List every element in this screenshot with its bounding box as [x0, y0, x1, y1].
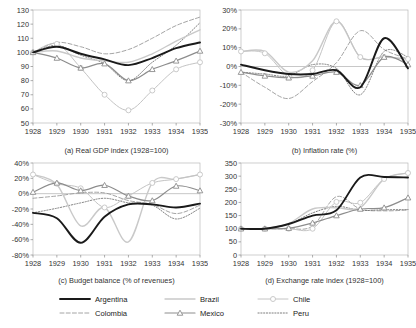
x-tick-label: 1930 — [280, 259, 296, 268]
y-tick-label: 350 — [225, 159, 237, 168]
series-line-argentina — [33, 203, 200, 242]
x-tick-label: 1935 — [400, 259, 416, 268]
chart-panel-b: -30%-20%-10%0%10%20%30%19281929193019311… — [208, 0, 416, 155]
x-tick-label: 1932 — [120, 259, 136, 268]
series-argentina — [33, 203, 200, 242]
x-tick-label: 1933 — [352, 127, 368, 136]
series-colombia — [241, 31, 408, 99]
legend-item-chile[interactable]: Chile — [258, 295, 310, 304]
x-tick-label: 1930 — [72, 259, 88, 268]
panel-caption-a: (a) Real GDP index (1928=100) — [64, 146, 168, 155]
chart-panel-a: 5060708090100110120130192819291930193119… — [0, 0, 208, 155]
legend-marker-chile — [271, 297, 276, 302]
legend-item-brazil[interactable]: Brazil — [165, 295, 219, 304]
x-tick-label: 1928 — [233, 127, 249, 136]
legend-label-peru: Peru — [293, 309, 309, 318]
y-tick-label: 300 — [225, 172, 237, 181]
y-tick-label: -10% — [220, 81, 238, 90]
series-line-mexico — [241, 198, 408, 229]
series-line-chile — [241, 21, 408, 78]
series-mexico — [30, 48, 203, 83]
y-tick-label: 80 — [21, 76, 29, 85]
y-tick-label: 100 — [17, 48, 29, 57]
series-marker-chile — [334, 199, 339, 204]
chart-svg-b: -30%-20%-10%0%10%20%30%19281929193019311… — [208, 0, 416, 155]
series-marker-chile — [198, 172, 203, 177]
panel-caption-d: (d) Exchange rate index (1928=100) — [265, 276, 384, 285]
x-tick-label: 1933 — [144, 127, 160, 136]
legend-item-peru[interactable]: Peru — [258, 309, 309, 318]
y-tick-label: 70 — [21, 90, 29, 99]
series-marker-chile — [310, 68, 315, 73]
series-argentina — [241, 175, 408, 229]
series-marker-chile — [358, 55, 363, 60]
series-line-argentina — [241, 175, 408, 229]
series-line-chile — [33, 43, 200, 110]
y-tick-label: 0% — [226, 62, 237, 71]
legend-label-chile: Chile — [293, 295, 310, 304]
series-marker-chile — [262, 51, 267, 56]
x-tick-label: 1932 — [120, 127, 136, 136]
legend-label-colombia: Colombia — [95, 309, 128, 318]
legend-svg: ArgentinaBrazilChileColombiaMexicoPeru — [0, 288, 416, 328]
series-argentina — [241, 38, 408, 88]
figure-container: 5060708090100110120130192819291930193119… — [0, 0, 416, 328]
x-tick-label: 1934 — [376, 259, 392, 268]
series-marker-chile — [406, 56, 411, 61]
x-tick-label: 1929 — [257, 259, 273, 268]
x-tick-label: 1929 — [49, 127, 65, 136]
series-line-mexico — [33, 51, 200, 81]
y-tick-label: 100 — [225, 224, 237, 233]
series-chile — [31, 172, 203, 210]
series-colombia — [241, 196, 408, 229]
chart-svg-c: -80%-60%-40%-20%0%20%40%1928192919301931… — [0, 155, 208, 285]
y-tick-label: 130 — [17, 6, 29, 15]
series-marker-chile — [31, 172, 36, 177]
series-marker-chile — [239, 49, 244, 54]
y-tick-label: 150 — [225, 211, 237, 220]
series-marker-chile — [150, 88, 155, 93]
legend-item-argentina[interactable]: Argentina — [60, 295, 128, 304]
panel-caption-b: (b) Inflation rate (%) — [292, 146, 357, 155]
x-tick-label: 1931 — [96, 127, 112, 136]
chart-panel-c: -80%-60%-40%-20%0%20%40%1928192919301931… — [0, 155, 208, 285]
y-tick-label: 20% — [14, 174, 29, 183]
x-tick-label: 1934 — [376, 127, 392, 136]
x-tick-label: 1930 — [280, 127, 296, 136]
series-marker-chile — [198, 60, 203, 65]
y-tick-label: 0% — [18, 189, 29, 198]
series-marker-chile — [174, 67, 179, 72]
y-tick-label: -20% — [12, 205, 30, 214]
x-tick-label: 1935 — [192, 127, 208, 136]
chart-svg-a: 5060708090100110120130192819291930193119… — [0, 0, 208, 155]
y-tick-label: 10% — [222, 43, 237, 52]
x-tick-label: 1929 — [257, 127, 273, 136]
x-tick-label: 1934 — [168, 259, 184, 268]
x-tick-label: 1932 — [328, 127, 344, 136]
x-tick-label: 1930 — [72, 127, 88, 136]
legend-item-mexico[interactable]: Mexico — [165, 309, 224, 318]
series-line-brazil — [241, 21, 408, 72]
x-tick-label: 1933 — [144, 259, 160, 268]
y-tick-label: -60% — [12, 235, 30, 244]
legend-label-mexico: Mexico — [200, 309, 224, 318]
series-mexico — [238, 195, 411, 231]
series-marker-chile — [102, 205, 107, 210]
series-chile — [239, 170, 411, 231]
y-tick-label: -20% — [220, 100, 238, 109]
legend-item-colombia[interactable]: Colombia — [60, 309, 128, 318]
panel-caption-c: (c) Budget balance (% of revenues) — [58, 276, 174, 285]
series-chile — [31, 41, 203, 112]
x-tick-label: 1935 — [400, 127, 416, 136]
y-tick-label: 20% — [222, 24, 237, 33]
x-tick-label: 1932 — [328, 259, 344, 268]
x-tick-label: 1935 — [192, 259, 208, 268]
legend-label-argentina: Argentina — [95, 295, 128, 304]
plot-frame — [33, 10, 200, 123]
x-tick-label: 1929 — [49, 259, 65, 268]
series-mexico — [30, 180, 203, 203]
series-marker-chile — [102, 92, 107, 97]
series-colombia — [33, 192, 200, 213]
legend-label-brazil: Brazil — [200, 295, 219, 304]
series-marker-chile — [358, 200, 363, 205]
